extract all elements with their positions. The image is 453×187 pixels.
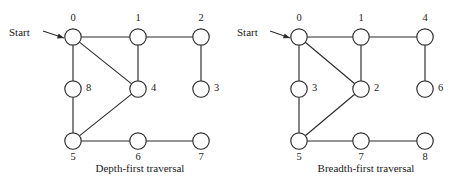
node-group: 014326578 — [291, 12, 443, 162]
graph-node-3[interactable] — [193, 81, 209, 97]
graph-node-7[interactable] — [353, 133, 369, 149]
graph-node-6[interactable] — [417, 81, 433, 97]
graph-node-label-7: 7 — [198, 151, 203, 162]
graph-node-5[interactable] — [291, 133, 307, 149]
graph-panel-depth-first: 012843567StartDepth-first traversal — [9, 12, 219, 174]
graph-edge-2-5 — [305, 94, 354, 135]
graph-node-0[interactable] — [65, 29, 81, 45]
graph-node-1[interactable] — [130, 29, 146, 45]
figure-canvas: 012843567StartDepth-first traversal01432… — [0, 0, 453, 187]
graph-node-2[interactable] — [353, 81, 369, 97]
graph-panel-breadth-first: 014326578StartBreadth-first traversal — [237, 12, 443, 174]
graph-node-label-8: 8 — [86, 82, 91, 93]
graph-node-4[interactable] — [130, 81, 146, 97]
graph-node-label-6: 6 — [438, 82, 443, 93]
graph-node-label-3: 3 — [214, 82, 219, 93]
graph-edge-4-5 — [79, 94, 131, 136]
graph-node-label-5: 5 — [70, 151, 75, 162]
graph-node-label-4: 4 — [422, 12, 428, 23]
graph-node-label-1: 1 — [358, 12, 363, 23]
graph-node-label-2: 2 — [374, 82, 379, 93]
graph-node-label-0: 0 — [296, 12, 301, 23]
graph-node-6[interactable] — [130, 133, 146, 149]
graph-edge-0-2 — [305, 42, 354, 83]
graph-node-8[interactable] — [65, 81, 81, 97]
graph-node-label-6: 6 — [135, 151, 140, 162]
graph-node-label-7: 7 — [358, 151, 363, 162]
start-label: Start — [9, 26, 30, 38]
graph-node-7[interactable] — [193, 133, 209, 149]
graph-node-8[interactable] — [417, 133, 433, 149]
start-arrow-head — [283, 33, 290, 38]
node-group: 012843567 — [65, 12, 219, 162]
graph-node-4[interactable] — [417, 29, 433, 45]
graph-node-label-1: 1 — [135, 12, 140, 23]
graph-node-label-3: 3 — [312, 82, 317, 93]
start-arrow-head — [57, 33, 64, 38]
panel-caption-depth-first: Depth-first traversal — [96, 162, 185, 174]
graph-node-label-5: 5 — [296, 151, 301, 162]
graph-node-label-2: 2 — [198, 12, 203, 23]
graph-node-1[interactable] — [353, 29, 369, 45]
graph-node-3[interactable] — [291, 81, 307, 97]
graph-traversal-figure: 012843567StartDepth-first traversal01432… — [0, 0, 453, 187]
start-label: Start — [237, 26, 258, 38]
panel-caption-breadth-first: Breadth-first traversal — [318, 162, 415, 174]
graph-node-2[interactable] — [193, 29, 209, 45]
graph-node-label-8: 8 — [422, 151, 427, 162]
graph-edge-0-4 — [79, 42, 131, 84]
graph-node-label-4: 4 — [151, 82, 157, 93]
graph-node-0[interactable] — [291, 29, 307, 45]
graph-node-label-0: 0 — [70, 12, 75, 23]
graph-node-5[interactable] — [65, 133, 81, 149]
